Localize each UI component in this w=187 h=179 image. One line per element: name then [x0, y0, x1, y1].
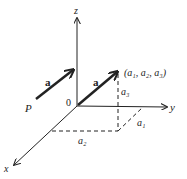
point-p-label: P: [24, 102, 32, 114]
free-vector-arrow: [36, 70, 73, 99]
a2-label: a₂: [78, 135, 87, 146]
a1-label: a₁: [137, 117, 145, 128]
x-axis-label: x: [3, 163, 9, 174]
vector-diagram: z y x 0 a P a (a₁, a₂, a₃) a₃ a₁ a₂: [0, 0, 187, 179]
position-vector-label: a: [93, 76, 99, 88]
endpoint-coordinates-label: (a₁, a₂, a₃): [124, 67, 167, 79]
y-axis: [77, 106, 167, 107]
x-axis: [14, 106, 77, 165]
a3-label: a₃: [121, 86, 130, 97]
origin-label: 0: [66, 97, 71, 108]
free-vector-label: a: [45, 76, 51, 88]
y-axis-label: y: [169, 101, 175, 113]
z-axis-label: z: [73, 5, 78, 16]
